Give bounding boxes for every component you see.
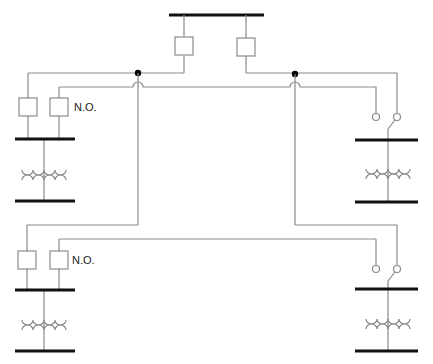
substation-upper-left [19,73,68,201]
feeder-2-upper [59,73,397,114]
source-breaker-left [28,15,193,73]
substation-lower-left [18,251,68,351]
single-line-diagram: N.O. N.O. [0,0,433,364]
substation-upper-right [366,114,410,203]
normally-open-label-lower: N.O. [72,254,95,266]
normally-open-label-upper: N.O. [74,101,97,113]
source-breaker-right [237,15,397,73]
substation-lower-right [366,266,410,352]
